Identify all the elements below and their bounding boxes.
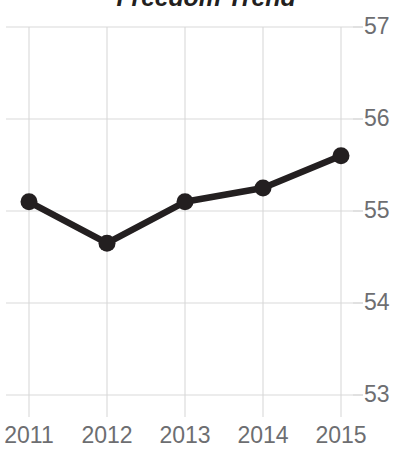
y-axis-tick-label: 54 [364,291,408,314]
data-point-marker [333,147,350,164]
chart-svg [0,0,412,418]
data-point-marker [99,235,116,252]
y-axis-tick-label: 57 [364,15,408,38]
data-point-marker [177,193,194,210]
y-axis-tick-label: 53 [364,383,408,406]
horizontal-gridlines [6,27,353,395]
x-axis-tick-label: 2013 [145,422,225,450]
axis-tick-marks [353,27,363,395]
x-axis-tick-label: 2012 [67,422,147,450]
y-axis-tick-label: 55 [364,199,408,222]
plot-area [0,0,412,418]
x-axis-tick-label: 2015 [301,422,381,450]
chart-container: Freedom Trend 5756555453 201120122013201… [0,0,412,460]
x-axis-tick-label: 2011 [0,422,69,450]
x-axis-tick-label: 2014 [223,422,303,450]
x-axis-labels: 20112012201320142015 [0,422,412,456]
y-axis-tick-label: 56 [364,107,408,130]
vertical-gridlines [29,27,341,417]
data-point-marker [21,193,38,210]
data-point-marker [255,180,272,197]
